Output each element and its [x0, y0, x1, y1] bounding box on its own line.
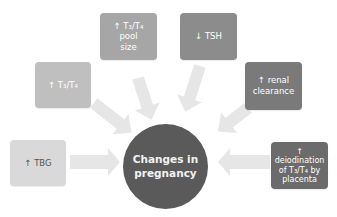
node-tsh-label: ↓ TSH	[195, 31, 222, 42]
node-tbg: ↑ TBG	[10, 140, 66, 186]
node-deiodination: ↑ deiodination of T₃/T₄ by placenta	[271, 142, 328, 189]
diagram-canvas: ↑ TBG ↑ T₃/T₄ ↑ T₃/T₄ pool size ↓ TSH ↑ …	[0, 0, 337, 217]
arrow-tbg-icon	[70, 148, 120, 176]
arrow-tsh-icon	[173, 62, 213, 116]
center-line1: Changes in	[133, 153, 198, 165]
arrow-t3t4-icon	[86, 93, 140, 143]
center-line2: pregnancy	[134, 167, 196, 179]
center-node: Changes in pregnancy	[123, 124, 208, 209]
node-t3t4: ↑ T₃/T₄	[35, 62, 91, 108]
node-renal-line1: ↑ renal	[253, 75, 294, 86]
node-t3t4-label: ↑ T₃/T₄	[48, 80, 78, 91]
arrow-deiodination-icon	[218, 148, 270, 176]
node-deiodination-line2: deiodination	[275, 156, 325, 165]
node-tbg-label: ↑ TBG	[24, 158, 51, 169]
node-deiodination-line4: placenta	[275, 175, 325, 184]
node-renal: ↑ renal clearance	[245, 62, 302, 110]
node-renal-line2: clearance	[253, 86, 294, 97]
node-deiodination-line3: of T₃/T₄ by	[275, 166, 325, 175]
node-tsh: ↓ TSH	[180, 13, 237, 60]
arrow-pool-size-icon	[126, 74, 164, 124]
node-pool-size-line2: size	[104, 42, 153, 53]
node-pool-size-line1: ↑ T₃/T₄ pool	[104, 21, 153, 42]
node-pool-size: ↑ T₃/T₄ pool size	[100, 13, 157, 60]
node-deiodination-line1: ↑	[275, 147, 325, 156]
